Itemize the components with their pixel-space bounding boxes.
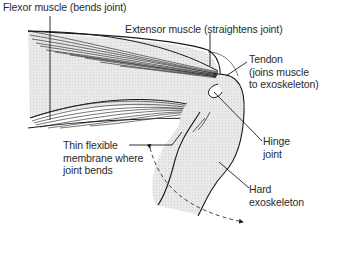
membrane-label-line2: membrane where <box>63 152 143 165</box>
hinge-label-line1: Hinge <box>263 135 290 148</box>
hinge-label-line2: joint <box>263 148 290 161</box>
tendon-label: Tendon (joins muscle to exoskeleton) <box>249 53 319 91</box>
exo-label-line2: exoskeleton <box>249 196 304 209</box>
membrane-label-line1: Thin flexible <box>63 139 143 152</box>
extensor-muscle-label: Extensor muscle (straightens joint) <box>125 23 283 36</box>
membrane-label: Thin flexible membrane where joint bends <box>63 139 143 177</box>
tendon-label-line2: (joins muscle <box>249 66 319 79</box>
tendon-label-line3: to exoskeleton) <box>249 78 319 91</box>
exo-label-line1: Hard <box>249 183 304 196</box>
membrane-label-line3: joint bends <box>63 164 143 177</box>
exoskeleton-label: Hard exoskeleton <box>249 183 304 208</box>
tendon-label-line1: Tendon <box>249 53 319 66</box>
flexor-muscle-label: Flexor muscle (bends joint) <box>3 1 126 14</box>
hinge-joint-label: Hinge joint <box>263 135 290 160</box>
limb-joint-illustration <box>0 0 350 256</box>
